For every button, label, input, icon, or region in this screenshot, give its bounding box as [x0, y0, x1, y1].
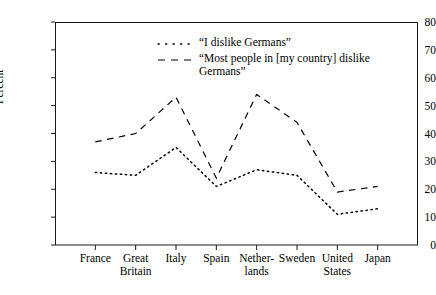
y-axis-tick-label: 0 [392, 240, 436, 252]
y-axis-tick-label: 30 [392, 156, 436, 168]
y-axis-ticks [51, 22, 55, 245]
legend-entry-most-people: “Most people in [my country] dislike Ger… [157, 52, 370, 79]
line-chart: 80706050403020100 Percent FranceGreat Br… [0, 0, 436, 295]
y-axis-title: Percent [0, 70, 6, 104]
y-axis-tick-label: 80 [392, 17, 436, 29]
series-line-1 [95, 94, 377, 192]
legend-label-most-people: “Most people in [my country] dislike Ger… [199, 52, 370, 79]
dotted-line-marker-icon [157, 36, 199, 50]
chart-legend: “I dislike Germans” “Most people in [my … [157, 36, 370, 81]
y-axis-tick-label: 20 [392, 184, 436, 196]
legend-entry-dislike: “I dislike Germans” [157, 36, 370, 50]
y-axis-tick-label: 60 [392, 72, 436, 84]
x-axis-tick-label: Japan [347, 252, 409, 265]
legend-label-dislike: “I dislike Germans” [199, 36, 291, 50]
y-axis-tick-label: 50 [392, 100, 436, 112]
x-axis-ticks [95, 245, 377, 250]
series-line-0 [95, 147, 377, 214]
y-axis-tick-label: 70 [392, 44, 436, 56]
y-axis-tick-label: 40 [392, 128, 436, 140]
y-axis-tick-label: 10 [392, 212, 436, 224]
dashed-line-marker-icon [157, 52, 199, 66]
data-series-layer [95, 94, 377, 214]
